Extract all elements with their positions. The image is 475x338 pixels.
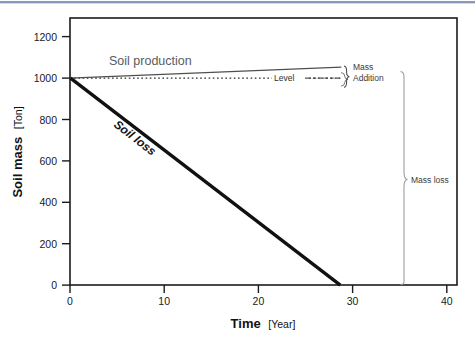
x-axis-ticks: [70, 285, 447, 293]
x-axis-title-group: Time [Year]: [231, 316, 296, 331]
y-tick-label-800: 800: [39, 114, 57, 126]
y-axis-ticks: [62, 37, 70, 286]
y-axis-title-group: Soil mass [Ton]: [10, 106, 25, 197]
y-tick-label-0: 0: [51, 279, 57, 291]
y-tick-label-400: 400: [39, 196, 57, 208]
x-tick-label-0: 0: [67, 295, 73, 307]
x-tick-label-20: 20: [253, 295, 265, 307]
mass-loss-label: Mass loss: [411, 175, 449, 185]
y-axis-title-main: Soil mass: [10, 137, 25, 198]
mass-addition-label-line2: Addition: [353, 73, 384, 83]
figure-root: 1200 1000 800 600 400 200 0 0 10 20 30 4…: [0, 0, 475, 338]
y-axis-title-unit: [Ton]: [12, 106, 24, 129]
x-tick-label-10: 10: [158, 295, 170, 307]
x-tick-label-40: 40: [441, 295, 453, 307]
mass-addition-label-line1: Mass: [353, 62, 373, 72]
y-tick-label-1000: 1000: [34, 72, 58, 84]
y-axis-tick-labels: 1200 1000 800 600 400 200 0: [34, 31, 58, 292]
y-tick-label-600: 600: [39, 155, 57, 167]
soil-production-label: Soil production: [109, 54, 192, 68]
x-axis-title: Time [Year]: [231, 316, 296, 331]
y-tick-label-1200: 1200: [34, 31, 58, 43]
x-axis-title-unit: [Year]: [268, 318, 295, 330]
soil-mass-vs-time-chart: 1200 1000 800 600 400 200 0 0 10 20 30 4…: [0, 0, 475, 338]
x-axis-tick-labels: 0 10 20 30 40: [67, 295, 453, 307]
level-label: Level: [274, 73, 294, 83]
y-tick-label-200: 200: [39, 238, 57, 250]
x-tick-label-30: 30: [347, 295, 359, 307]
x-axis-title-main: Time: [231, 316, 261, 331]
y-axis-title: Soil mass [Ton]: [10, 106, 25, 197]
